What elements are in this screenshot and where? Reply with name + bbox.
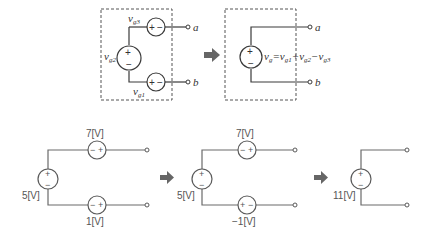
svg-text:+: + (98, 200, 103, 210)
terminal-a-label: a (315, 21, 321, 33)
label-1v: 1[V] (86, 216, 104, 227)
label-5v: 5[V] (177, 190, 195, 201)
wire (251, 69, 308, 82)
label-7v: 7[V] (236, 128, 254, 139)
svg-text:+: + (240, 200, 245, 210)
svg-text:−: − (248, 200, 253, 210)
wire (129, 71, 147, 82)
svg-text:+: + (358, 169, 363, 179)
label-vg2: vg2 (104, 50, 116, 64)
source-1v: − + (88, 196, 106, 214)
terminal-a (308, 25, 312, 29)
svg-text:−: − (157, 77, 163, 88)
svg-text:+: + (248, 145, 253, 155)
svg-text:+: + (98, 145, 103, 155)
wire (48, 189, 88, 205)
svg-text:−: − (248, 58, 254, 69)
terminal-bottom (405, 203, 409, 207)
svg-text:+: + (247, 46, 253, 57)
terminal-b (186, 80, 190, 84)
bottom-circuit-3: + − 11[V] (333, 148, 409, 207)
wire (361, 150, 405, 169)
svg-text:−: − (90, 200, 95, 210)
label-5v: 5[V] (22, 190, 40, 201)
svg-text:−: − (358, 180, 363, 190)
wire (361, 189, 405, 205)
svg-text:+: + (149, 22, 155, 33)
svg-text:+: + (125, 47, 131, 58)
svg-text:−: − (126, 59, 132, 70)
label-minus-1v: −1[V] (232, 216, 256, 227)
source-vg2: + − (117, 46, 141, 70)
svg-text:+: + (199, 169, 204, 179)
terminal-top (405, 148, 409, 152)
wire (48, 150, 88, 169)
svg-text:−: − (157, 22, 163, 33)
label-vg1: vg1 (133, 85, 145, 99)
wire (202, 189, 238, 205)
svg-text:+: + (45, 169, 50, 179)
source-vg: + − (240, 46, 262, 69)
terminal-bottom (145, 203, 149, 207)
source-5v: + − (38, 169, 58, 190)
label-11v: 11[V] (333, 190, 356, 201)
terminal-b-label: b (193, 76, 199, 88)
svg-text:−: − (199, 180, 204, 190)
top-right-circuit: + − vg=vg1+vg2−vg3 a b (225, 9, 331, 100)
source-11v: + − (351, 169, 371, 190)
svg-text:−: − (90, 145, 95, 155)
svg-text:−: − (240, 145, 245, 155)
right-arrow-icon (314, 171, 328, 184)
equation-label: vg=vg1+vg2−vg3 (264, 50, 331, 64)
bottom-circuit-2: + − − + + − 5[V] 7[V] −1[V] (177, 128, 297, 227)
source-vg1: + − (147, 73, 165, 91)
terminal-a-label: a (193, 21, 199, 33)
label-vg3: vg3 (128, 12, 140, 26)
source-5v: + − (192, 169, 212, 190)
svg-text:−: − (45, 180, 50, 190)
source-minus-1v: + − (238, 196, 256, 214)
terminal-top (293, 148, 297, 152)
terminal-top (145, 148, 149, 152)
terminal-bottom (293, 203, 297, 207)
right-arrow-icon (160, 171, 174, 184)
label-7v: 7[V] (86, 128, 104, 139)
wire (202, 150, 238, 169)
source-7v: − + (238, 141, 256, 159)
terminal-b (308, 80, 312, 84)
circuit-diagram: + − + − + − vg3 vg2 vg1 a b (0, 0, 432, 241)
right-arrow-icon (204, 48, 220, 62)
source-7v: − + (88, 141, 106, 159)
wire (251, 27, 308, 45)
top-left-circuit: + − + − + − vg3 vg2 vg1 a b (101, 9, 199, 100)
svg-text:+: + (149, 77, 155, 88)
bottom-circuit-1: + − − + − + 5[V] 7[V] 1[V] (22, 128, 149, 227)
terminal-b-label: b (315, 76, 321, 88)
terminal-a (186, 25, 190, 29)
source-vg3: + − (147, 18, 165, 36)
